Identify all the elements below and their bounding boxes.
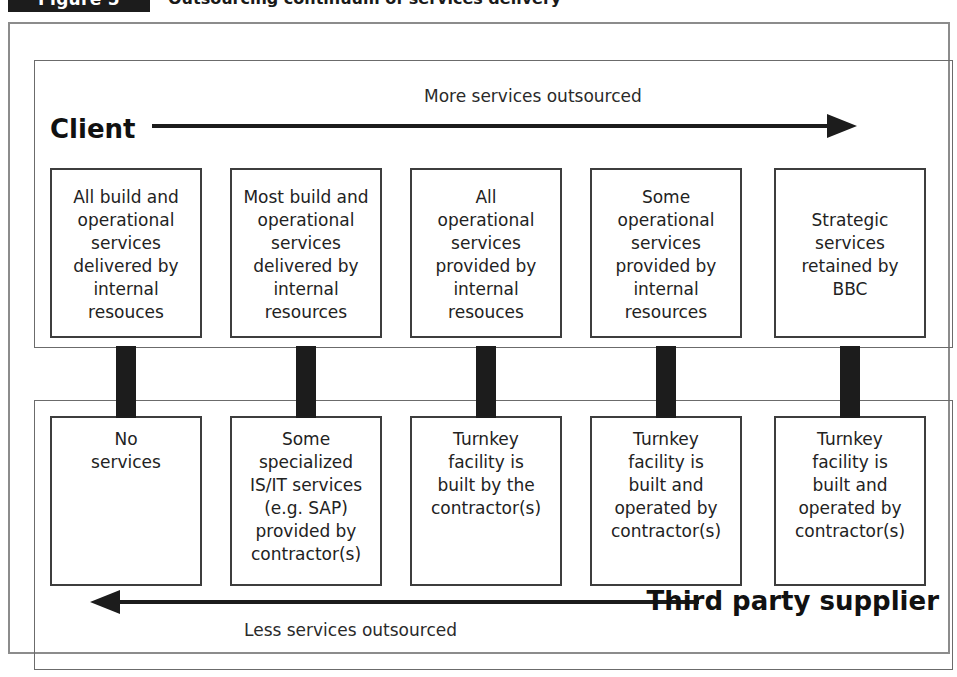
client-label: Client xyxy=(50,114,135,144)
connector-bar-4 xyxy=(656,346,676,418)
figure-caption-text: Outsourcing continuum of services delive… xyxy=(168,0,561,12)
figure-caption-strip: Figure 5 Outsourcing continuum of servic… xyxy=(0,0,957,14)
arrow-right-icon xyxy=(827,114,857,138)
connector-bar-5 xyxy=(840,346,860,418)
supplier-box-5: Turnkey facility is built and operated b… xyxy=(774,416,926,586)
client-box-3: All operational services provided by int… xyxy=(410,168,562,338)
connector-bar-1 xyxy=(116,346,136,418)
client-axis: Client More services outsourced xyxy=(34,80,953,152)
supplier-arrow-line xyxy=(119,600,699,604)
client-box-5: Strategic services retained by BBC xyxy=(774,168,926,338)
supplier-box-4: Turnkey facility is built and operated b… xyxy=(590,416,742,586)
outsourcing-continuum-diagram: Client More services outsourced All buil… xyxy=(34,60,953,669)
client-box-4: Some operational services provided by in… xyxy=(590,168,742,338)
more-services-outsourced-label: More services outsourced xyxy=(424,86,642,106)
client-box-2: Most build and operational services deli… xyxy=(230,168,382,338)
supplier-box-2: Some specialized IS/IT services (e.g. SA… xyxy=(230,416,382,586)
connector-bar-3 xyxy=(476,346,496,418)
arrow-left-icon xyxy=(90,590,120,614)
supplier-box-3: Turnkey facility is built by the contrac… xyxy=(410,416,562,586)
figure-number-badge: Figure 5 xyxy=(8,0,150,12)
connector-bar-2 xyxy=(296,346,316,418)
third-party-supplier-label: Third party supplier xyxy=(646,586,939,616)
client-box-1: All build and operational services deliv… xyxy=(50,168,202,338)
supplier-box-1: No services xyxy=(50,416,202,586)
less-services-outsourced-label: Less services outsourced xyxy=(244,620,457,640)
client-arrow-line xyxy=(152,124,830,128)
supplier-axis: Less services outsourced Third party sup… xyxy=(34,578,953,650)
figure-outer-frame: Client More services outsourced All buil… xyxy=(8,22,950,654)
supplier-box-row: No services Some specialized IS/IT servi… xyxy=(34,400,953,590)
